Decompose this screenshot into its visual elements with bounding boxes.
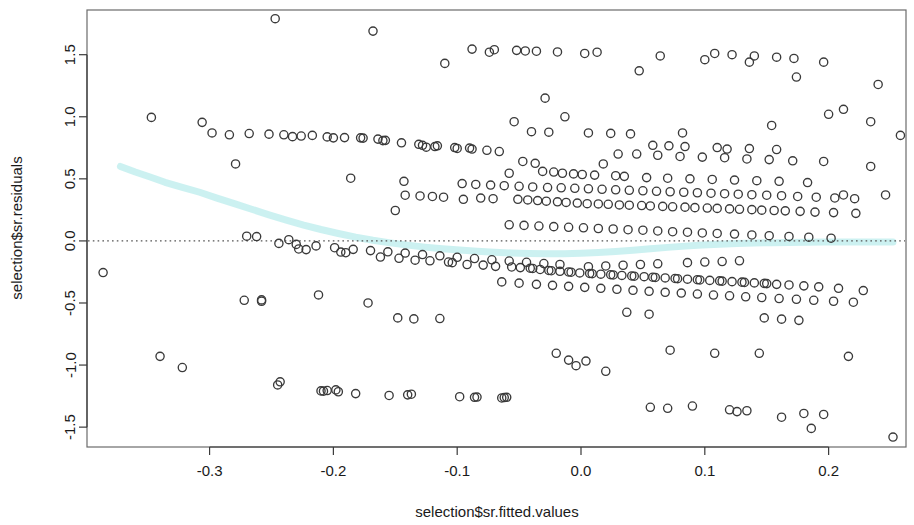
residual-plot-figure: -0.3-0.2-0.10.00.10.2 -1.5-1.0-0.50.00.5… bbox=[0, 0, 914, 525]
x-tick-label: -0.2 bbox=[320, 462, 346, 479]
y-tick-label: -1.0 bbox=[62, 352, 79, 378]
y-tick-label: 0.5 bbox=[62, 168, 79, 189]
y-tick-label: 1.5 bbox=[62, 44, 79, 65]
plot-canvas: -0.3-0.2-0.10.00.10.2 -1.5-1.0-0.50.00.5… bbox=[0, 0, 914, 525]
x-tick-label: 0.0 bbox=[571, 462, 592, 479]
y-tick-label: -0.5 bbox=[62, 290, 79, 316]
y-tick-label: 0.0 bbox=[62, 230, 79, 251]
y-tick-label: -1.5 bbox=[62, 414, 79, 440]
x-tick-label: 0.1 bbox=[694, 462, 715, 479]
x-axis-title: selection$sr.fitted.values bbox=[415, 503, 578, 520]
y-tick-label: 1.0 bbox=[62, 106, 79, 127]
y-axis-title: selection$sr.residuals bbox=[8, 156, 25, 299]
x-tick-label: -0.3 bbox=[197, 462, 223, 479]
x-tick-label: -0.1 bbox=[444, 462, 470, 479]
x-tick-label: 0.2 bbox=[818, 462, 839, 479]
